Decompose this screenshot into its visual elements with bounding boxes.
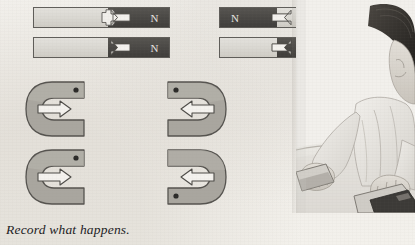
polarity-dot-icon <box>173 87 178 92</box>
force-arrow-right-icon <box>100 8 134 27</box>
pole-label-n: N <box>231 12 239 23</box>
polarity-dot-icon <box>73 155 78 160</box>
polarity-dot-icon <box>73 87 78 92</box>
polarity-dot-icon <box>173 193 178 198</box>
page-caption: Record what happens. <box>6 222 130 238</box>
photo-child-with-magnets <box>296 0 415 213</box>
horseshoe-top-left <box>24 80 106 138</box>
horseshoe-bottom-left <box>24 148 106 206</box>
pole-label-n: N <box>151 42 159 53</box>
magnet-pole-light <box>34 8 108 27</box>
bar-magnet-top-left: N <box>33 7 170 28</box>
force-arrow-right-icon <box>100 38 134 57</box>
textbook-page: N N N N <box>0 0 415 245</box>
horseshoe-top-right <box>146 80 228 138</box>
horseshoe-bottom-right <box>146 148 228 206</box>
bar-magnet-bottom-left: N <box>33 37 170 58</box>
magnet-pole-light <box>34 38 108 57</box>
pole-label-n: N <box>151 12 159 23</box>
